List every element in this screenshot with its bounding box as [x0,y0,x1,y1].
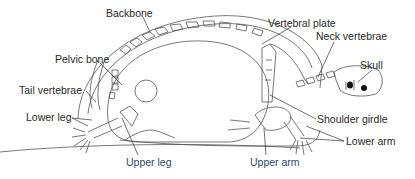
label-upper-leg: Upper leg [126,156,172,168]
label-neck-vertebrae: Neck vertebrae [316,30,387,42]
label-upper-arm: Upper arm [250,156,300,168]
backbone-vertebrae [120,21,263,54]
label-backbone: Backbone [106,7,153,19]
label-tail-vertebrae: Tail vertebrae [19,84,82,96]
label-lower-arm: Lower arm [346,135,396,147]
hind-foot [72,128,90,153]
label-lower-leg: Lower leg [26,111,72,123]
label-pelvic-bone: Pelvic bone [55,53,109,65]
label-vertebral-plate: Vertebral plate [268,17,336,29]
label-skull: Skull [360,59,383,71]
label-shoulder-girdle: Shoulder girdle [317,113,388,125]
